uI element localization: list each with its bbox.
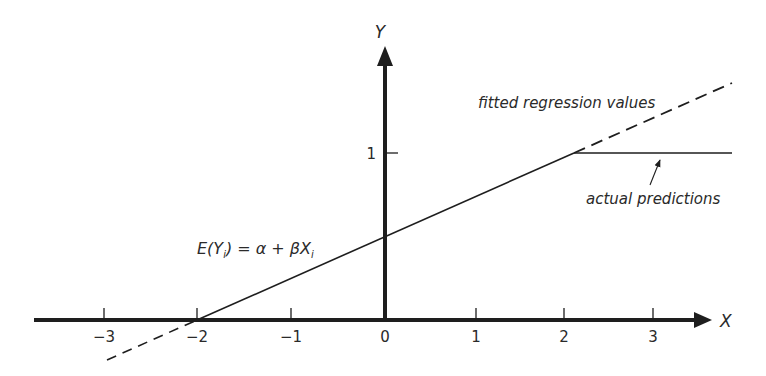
x-tick-labels: −3 −2 −1 0 1 2 3	[93, 328, 658, 346]
fitted-values-label: fitted regression values	[478, 94, 656, 112]
eq-sub2: i	[311, 249, 314, 260]
y-axis-arrow-icon	[377, 46, 393, 66]
y-axis-label: Y	[375, 22, 387, 42]
x-axis-arrow-icon	[694, 312, 712, 328]
actual-predictions-label: actual predictions	[586, 190, 721, 208]
fitted-line-dashed-lower	[107, 320, 197, 360]
eq-lhs: E(Y	[197, 239, 224, 258]
x-tick-label: −3	[93, 328, 115, 346]
linear-probability-diagram: X −3 −2 −1 0 1 2 3 Y 1 fitted regression…	[0, 0, 766, 376]
actual-predictions-arrow-icon	[650, 160, 660, 185]
x-tick-label: 3	[648, 328, 658, 346]
y-axis: Y 1	[366, 22, 398, 322]
x-tick-label: 1	[471, 328, 481, 346]
x-axis-label: X	[719, 311, 732, 331]
x-tick-label: 0	[380, 328, 390, 346]
x-tick-label: −1	[280, 328, 302, 346]
y-tick-label: 1	[366, 145, 376, 163]
regression-equation: E(Yi) = α + βXi	[197, 239, 314, 260]
x-tick-label: 2	[559, 328, 569, 346]
eq-mid: ) = α + βX	[225, 239, 312, 258]
x-tick-label: −2	[186, 328, 208, 346]
